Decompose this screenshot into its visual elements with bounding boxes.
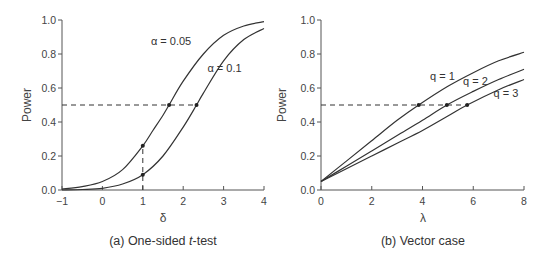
series-label-2: q = 2 [463,75,488,87]
y-tick-label: 1.0 [41,14,56,26]
data-marker [141,144,145,148]
panel-a-one-sided-t-test: 0.00.20.40.60.81.0−101234 α = 0.05α = 0.… [20,14,267,248]
panel-a-y-axis-title: Power [20,88,34,122]
series-label-1: α = 0.05 [151,35,191,47]
x-tick-label: 0 [99,195,105,207]
series-curve-2 [321,69,524,181]
panel-b-x-axis-title: λ [420,211,426,225]
x-tick-label: 1 [140,195,146,207]
data-marker [195,103,199,107]
y-tick-label: 1.0 [300,14,315,26]
x-tick-label: −1 [56,195,68,207]
data-marker [417,103,421,107]
y-tick-label: 0.2 [41,150,56,162]
panel-a-x-axis-title: δ [160,211,167,225]
x-tick-label: 4 [261,195,267,207]
y-tick-label: 0.8 [300,48,315,60]
series-curve-1 [321,52,524,181]
panel-b-axes: 0.00.20.40.60.81.002468 [300,14,527,207]
data-marker [141,173,145,177]
series-label-2: α = 0.1 [207,62,241,74]
panel-a-reference-lines [62,105,197,190]
panel-b-series-labels: q = 1q = 2q = 3 [430,70,518,99]
data-marker [465,103,469,107]
panel-a-caption: (a) One-sided t-test [109,234,217,248]
panel-b-curves [321,52,524,181]
x-tick-label: 4 [420,195,426,207]
y-tick-label: 0.4 [300,116,315,128]
y-tick-label: 0.2 [300,150,315,162]
panel-a-markers [141,103,199,177]
panel-a-series-labels: α = 0.05α = 0.1 [151,35,242,74]
series-label-1: q = 1 [430,70,455,82]
y-tick-label: 0.4 [41,116,56,128]
y-tick-label: 0.0 [41,184,56,196]
panel-a-curves [62,22,264,190]
y-tick-label: 0.0 [300,184,315,196]
series-label-3: q = 3 [494,87,519,99]
x-tick-label: 6 [470,195,476,207]
panel-b-caption: (b) Vector case [381,234,465,248]
data-marker [167,103,171,107]
x-tick-label: 3 [221,195,227,207]
y-tick-label: 0.6 [300,82,315,94]
panel-b-y-axis-title: Power [275,88,289,122]
x-tick-label: 2 [180,195,186,207]
y-tick-label: 0.8 [41,48,56,60]
panel-b-vector-case: 0.00.20.40.60.81.002468 q = 1q = 2q = 3 … [275,14,527,248]
y-tick-label: 0.6 [41,82,56,94]
figure: 0.00.20.40.60.81.0−101234 α = 0.05α = 0.… [0,0,546,259]
series-curve-2 [62,29,264,191]
x-tick-label: 8 [521,195,527,207]
x-tick-label: 0 [318,195,324,207]
data-marker [445,103,449,107]
x-tick-label: 2 [369,195,375,207]
